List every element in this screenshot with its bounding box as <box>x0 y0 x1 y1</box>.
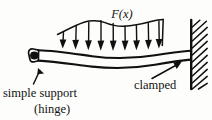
simple-support-leader-head <box>37 68 44 74</box>
load-arrow <box>85 22 92 50</box>
load-arrow-head <box>98 41 105 51</box>
beam-top-edge <box>39 50 191 58</box>
hatch-line <box>192 76 207 89</box>
load-arrow <box>60 33 67 49</box>
beam-diagram-svg: F(x) simple support (hinge) clamped <box>0 0 212 120</box>
hinge-pin-dot <box>30 51 38 59</box>
beam-diagram: F(x) simple support (hinge) clamped <box>0 0 212 120</box>
hatch-line <box>192 69 207 83</box>
hatch-line <box>192 48 207 62</box>
load-right-edge <box>162 20 163 46</box>
load-arrow <box>122 26 129 51</box>
load-label: F(x) <box>110 7 133 21</box>
load-arrow-head <box>72 40 79 50</box>
simple-support-leader <box>34 68 45 84</box>
load-arrow-head <box>85 40 92 50</box>
load-arrow <box>133 26 140 50</box>
hatch-line <box>192 62 207 76</box>
load-arrow <box>145 23 152 49</box>
hatch-line <box>192 20 200 27</box>
wall-hatching <box>192 20 207 89</box>
load-arrow <box>98 21 105 51</box>
load-arrow-head <box>156 39 163 49</box>
load-arrow <box>156 21 163 49</box>
hatch-line <box>192 41 207 55</box>
hatch-line <box>192 27 207 41</box>
load-arrow-shaft <box>63 33 64 41</box>
clamped-leader-shaft <box>152 65 177 79</box>
hatch-line <box>192 34 207 48</box>
beam-bottom-edge <box>38 60 190 68</box>
hatch-line <box>199 83 208 89</box>
load-arrow-head <box>60 39 67 48</box>
load-distribution-curve <box>58 20 164 35</box>
load-arrow-head <box>145 40 152 50</box>
load-arrow-head <box>122 41 129 51</box>
hatch-line <box>192 21 206 34</box>
clamped-label: clamped <box>134 78 177 92</box>
load-arrow-head <box>133 40 140 50</box>
load-arrow <box>110 23 117 51</box>
clamped-leader-head <box>173 61 182 69</box>
load-arrow <box>72 27 79 50</box>
simple-support-label-line2: (hinge) <box>34 102 70 116</box>
load-arrow-head <box>110 41 117 51</box>
hatch-line <box>192 55 207 69</box>
simple-support-label-line1: simple support <box>3 86 77 100</box>
